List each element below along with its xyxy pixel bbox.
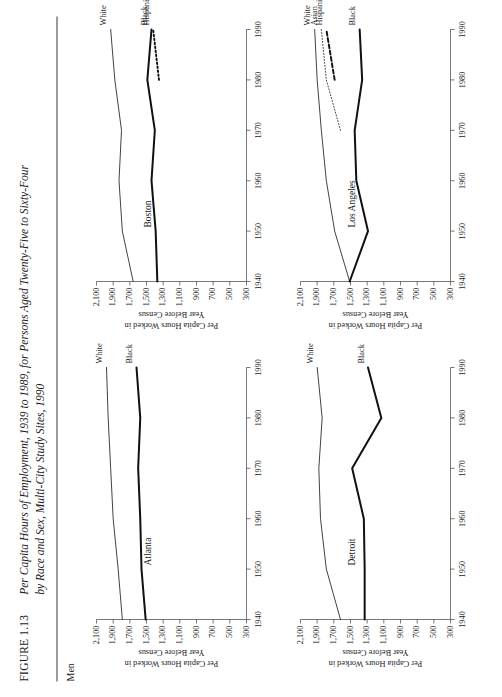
- y-axis-label: Per Capita Hours Worked inYear Before Ce…: [96, 646, 246, 667]
- x-axis-tick-label: 1950: [253, 549, 262, 589]
- series-label-hispanic: Hispanic: [141, 0, 150, 25]
- caption-line-1: Per Capita Hours of Employment, 1939 to …: [16, 164, 32, 594]
- figure-caption: FIGURE 1.13 Per Capita Hours of Employme…: [16, 16, 47, 681]
- y-axis-label-line-2: Year Before Census: [96, 308, 246, 319]
- y-axis-label: Per Capita Hours Worked inYear Before Ce…: [300, 308, 450, 329]
- series-label-black: Black: [356, 344, 365, 363]
- x-axis-tick-label: 1970: [457, 448, 466, 488]
- x-axis-tick-label: 1960: [253, 160, 262, 200]
- series-label-black: Black: [347, 6, 356, 25]
- x-axis-tick-label: 1980: [253, 397, 262, 437]
- y-axis-label-line-2: Year Before Census: [300, 308, 450, 319]
- figure-page: FIGURE 1.13 Per Capita Hours of Employme…: [0, 0, 502, 697]
- y-axis-label: Per Capita Hours Worked inYear Before Ce…: [96, 308, 246, 329]
- y-axis-label-line-1: Per Capita Hours Worked in: [300, 657, 450, 668]
- series-label-white: White: [94, 343, 103, 363]
- x-axis-tick-label: 1960: [457, 160, 466, 200]
- x-axis-tick-label: 1950: [457, 211, 466, 251]
- series-label-white: White: [305, 343, 314, 363]
- x-axis-tick-label: 1990: [253, 9, 262, 49]
- panel-boston: Boston2,1001,9001,7001,5001,3001,1009007…: [88, 13, 284, 343]
- series-line-hispanic: [326, 29, 334, 79]
- series-line-asian: [321, 29, 340, 130]
- panel-grid: Atlanta2,1001,9001,7001,5001,3001,100900…: [84, 11, 492, 687]
- series-line-hispanic: [153, 29, 159, 79]
- y-axis-label-line-2: Year Before Census: [96, 646, 246, 657]
- series-line-white: [110, 29, 133, 281]
- caption-line-2: by Race and Sex, Multi-City Study Sites,…: [32, 164, 48, 594]
- x-axis-tick-label: 1990: [457, 347, 466, 387]
- x-axis-tick-label: 1970: [253, 110, 262, 150]
- y-axis-label-line-1: Per Capita Hours Worked in: [96, 657, 246, 668]
- y-axis-label-line-1: Per Capita Hours Worked in: [96, 319, 246, 330]
- x-axis-tick-label: 1940: [253, 261, 262, 301]
- x-axis-tick-label: 1980: [253, 59, 262, 99]
- x-axis-tick-label: 1940: [457, 599, 466, 639]
- series-line-white: [317, 367, 340, 619]
- x-axis-tick-label: 1980: [457, 59, 466, 99]
- figure-number: FIGURE 1.13: [16, 614, 29, 681]
- x-axis-tick-label: 1960: [253, 498, 262, 538]
- panel-title: Boston: [142, 200, 152, 227]
- x-axis-tick-label: 1960: [457, 498, 466, 538]
- series-line-black: [136, 367, 145, 619]
- section-header-men: Men: [64, 663, 75, 681]
- panel-los-angeles: Los Angeles2,1001,9001,7001,5001,3001,10…: [292, 13, 488, 343]
- panel-detroit: Detroit2,1001,9001,7001,5001,3001,100900…: [292, 351, 488, 681]
- series-label-white: White: [98, 5, 107, 25]
- y-axis-label-line-1: Per Capita Hours Worked in: [300, 319, 450, 330]
- x-axis-tick-label: 1970: [457, 110, 466, 150]
- x-axis-tick-label: 1940: [253, 599, 262, 639]
- caption-divider-rule: [56, 16, 57, 681]
- series-line-white: [106, 367, 122, 619]
- panel-atlanta: Atlanta2,1001,9001,7001,5001,3001,100900…: [88, 351, 284, 681]
- series-line-black: [352, 367, 381, 619]
- x-axis-tick-label: 1990: [253, 347, 262, 387]
- y-axis-label: Per Capita Hours Worked inYear Before Ce…: [300, 646, 450, 667]
- series-label-black: Black: [124, 344, 133, 363]
- x-axis-tick-label: 1980: [457, 397, 466, 437]
- x-axis-tick-label: 1950: [457, 549, 466, 589]
- panel-title: Detroit: [346, 538, 356, 565]
- rotated-page-wrapper: FIGURE 1.13 Per Capita Hours of Employme…: [0, 0, 502, 697]
- panel-title: Los Angeles: [346, 180, 356, 227]
- x-axis-tick-label: 1990: [457, 9, 466, 49]
- x-axis-tick-label: 1950: [253, 211, 262, 251]
- y-axis-label-line-2: Year Before Census: [300, 646, 450, 657]
- x-axis-tick-label: 1940: [457, 261, 466, 301]
- series-label-hispanic: Hispanic: [314, 0, 323, 25]
- series-line-black: [349, 29, 367, 281]
- panel-title: Atlanta: [142, 537, 152, 565]
- series-line-black: [147, 29, 157, 281]
- x-axis-tick-label: 1970: [253, 448, 262, 488]
